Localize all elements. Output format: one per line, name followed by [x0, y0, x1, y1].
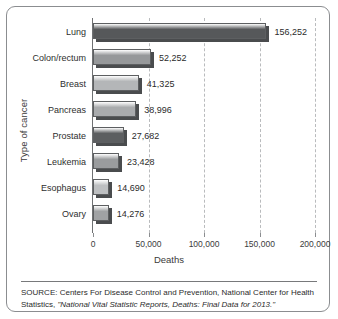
- bar-fill: [93, 23, 266, 39]
- bar[interactable]: [93, 75, 139, 94]
- bar-fill: [93, 179, 109, 195]
- bar-fill: [93, 127, 124, 143]
- bar[interactable]: [93, 205, 109, 224]
- bar-row: Lung156,252: [7, 23, 331, 45]
- bar[interactable]: [93, 49, 151, 68]
- bar-row: Leukemia23,428: [7, 153, 331, 175]
- x-axis-tick-label: 0: [91, 239, 96, 249]
- x-axis-title: Deaths: [7, 254, 331, 265]
- bar-value-label: 14,276: [117, 209, 145, 219]
- bar-fill: [93, 205, 109, 221]
- source-line-1: SOURCE: Centers For Disease Control and …: [21, 288, 289, 297]
- category-label: Esophagus: [7, 183, 86, 193]
- source-line-2-italic: "National Vital Statistic Reports, Death…: [57, 300, 275, 309]
- category-label: Pancreas: [7, 105, 86, 115]
- bar[interactable]: [93, 153, 119, 172]
- x-axis-tick: [93, 233, 94, 237]
- bar-fill: [93, 49, 151, 65]
- x-axis-tick: [315, 233, 316, 237]
- category-label: Lung: [7, 27, 86, 37]
- bar-fill: [93, 75, 139, 91]
- bar-value-label: 38,996: [144, 105, 172, 115]
- bar-shadow: [96, 117, 139, 120]
- bar[interactable]: [93, 127, 124, 146]
- bar-row: Breast41,325: [7, 75, 331, 97]
- bar-shadow: [96, 91, 142, 94]
- bar-shadow: [96, 65, 154, 68]
- bar[interactable]: [93, 101, 136, 120]
- bar-fill: [93, 153, 119, 169]
- category-label: Ovary: [7, 209, 86, 219]
- bar-shadow: [96, 195, 112, 198]
- bar-shadow: [96, 39, 269, 42]
- bar-row: Esophagus14,690: [7, 179, 331, 201]
- bar-shadow: [96, 169, 122, 172]
- bar-value-label: 23,428: [127, 157, 155, 167]
- source-separator: [21, 281, 317, 282]
- bar-value-label: 156,252: [274, 27, 307, 37]
- category-label: Leukemia: [7, 157, 86, 167]
- source-note: SOURCE: Centers For Disease Control and …: [21, 287, 321, 310]
- bar-row: Prostate27,682: [7, 127, 331, 149]
- x-axis-tick-label: 100,000: [189, 239, 220, 249]
- bar-chart-plot-area: Type of cancer 050,000100,000150,000200,…: [7, 7, 331, 259]
- category-label: Prostate: [7, 131, 86, 141]
- bar-row: Colon/rectum52,252: [7, 49, 331, 71]
- x-axis-tick: [204, 233, 205, 237]
- x-axis-tick: [260, 233, 261, 237]
- bar[interactable]: [93, 23, 266, 42]
- x-axis-tick-label: 150,000: [244, 239, 275, 249]
- bar-value-label: 41,325: [147, 79, 175, 89]
- bar-row: Ovary14,276: [7, 205, 331, 227]
- bar-fill: [93, 101, 136, 117]
- x-axis-tick-label: 200,000: [300, 239, 331, 249]
- bar-value-label: 27,682: [132, 131, 160, 141]
- x-axis-tick: [149, 233, 150, 237]
- category-label: Breast: [7, 79, 86, 89]
- bar-value-label: 52,252: [159, 53, 187, 63]
- bar-shadow: [96, 221, 112, 224]
- category-label: Colon/rectum: [7, 53, 86, 63]
- chart-figure-frame: Type of cancer 050,000100,000150,000200,…: [6, 6, 330, 312]
- bar[interactable]: [93, 179, 109, 198]
- bar-shadow: [96, 143, 127, 146]
- bar-value-label: 14,690: [117, 183, 145, 193]
- x-axis-tick-label: 50,000: [136, 239, 162, 249]
- bar-row: Pancreas38,996: [7, 101, 331, 123]
